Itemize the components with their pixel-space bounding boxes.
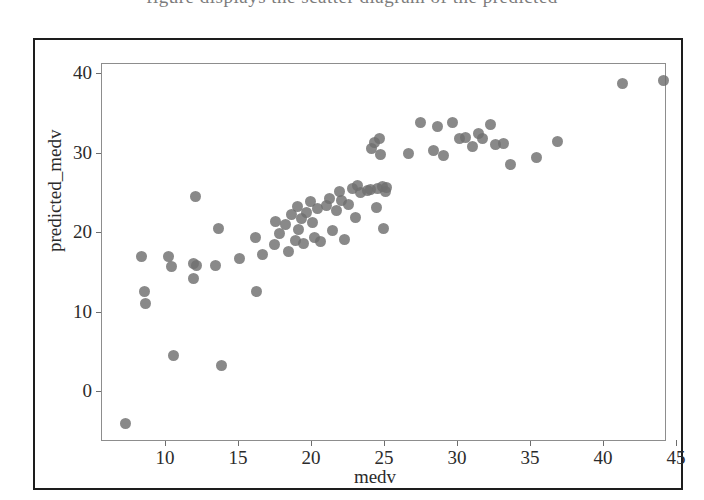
- data-point: [163, 251, 174, 262]
- data-point: [269, 239, 280, 250]
- data-point: [190, 191, 201, 202]
- data-point: [447, 117, 458, 128]
- data-point: [327, 225, 338, 236]
- data-point: [485, 119, 496, 130]
- data-point: [505, 159, 516, 170]
- data-point: [331, 205, 342, 216]
- data-point: [136, 251, 147, 262]
- data-point: [374, 133, 385, 144]
- data-point: [298, 238, 309, 249]
- data-point: [339, 234, 350, 245]
- data-point: [432, 121, 443, 132]
- data-point: [375, 149, 386, 160]
- data-point: [531, 152, 542, 163]
- data-point: [250, 232, 261, 243]
- page-text-fragment: figure displays the scatter diagram of t…: [0, 0, 704, 8]
- data-point: [350, 212, 361, 223]
- data-point: [617, 78, 628, 89]
- data-point: [168, 350, 179, 361]
- data-point: [210, 260, 221, 271]
- data-point: [140, 298, 151, 309]
- data-point: [251, 286, 262, 297]
- data-point: [467, 141, 478, 152]
- x-tick-mark: [676, 440, 677, 446]
- data-point: [371, 202, 382, 213]
- y-tick-label: 10: [60, 301, 92, 323]
- scatter-plot-area: [101, 63, 666, 441]
- data-point: [280, 219, 291, 230]
- data-point: [498, 138, 509, 149]
- data-point: [378, 223, 389, 234]
- data-point: [257, 249, 268, 260]
- data-point: [438, 150, 449, 161]
- y-tick-label: 40: [60, 62, 92, 84]
- data-point: [403, 148, 414, 159]
- data-point: [324, 193, 335, 204]
- data-point: [315, 236, 326, 247]
- data-point: [216, 360, 227, 371]
- data-point: [166, 261, 177, 272]
- data-point: [191, 260, 202, 271]
- x-axis-label: medv: [354, 466, 396, 488]
- data-point: [381, 182, 392, 193]
- data-point: [234, 253, 245, 264]
- data-point: [120, 418, 131, 429]
- data-point: [188, 273, 199, 284]
- y-tick-label: 0: [60, 380, 92, 402]
- x-axis-label-wrapper: medv: [0, 466, 704, 488]
- data-point: [283, 246, 294, 257]
- data-point: [477, 133, 488, 144]
- data-point: [552, 136, 563, 147]
- data-point: [213, 223, 224, 234]
- data-point: [293, 224, 304, 235]
- data-point: [139, 286, 150, 297]
- data-point: [415, 117, 426, 128]
- data-point: [307, 217, 318, 228]
- data-point: [343, 199, 354, 210]
- y-axis-label: predicted_medv: [44, 130, 66, 252]
